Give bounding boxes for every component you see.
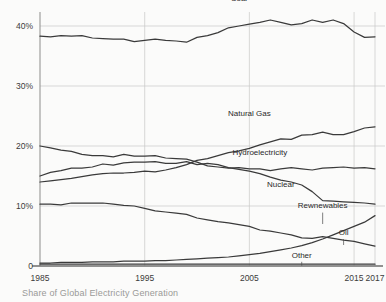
x-tick-label: 2005 — [240, 273, 259, 283]
x-tick-label: 1995 — [135, 273, 154, 283]
y-tick-label: 10% — [16, 201, 33, 211]
y-tick-label: 40% — [16, 21, 33, 31]
series-label-oil: Oil — [339, 228, 349, 237]
x-tick-label: 2015 — [345, 273, 364, 283]
chart-canvas: 010%20%30%40%19851995200520152017CoalNat… — [0, 0, 386, 302]
y-tick-label: 30% — [16, 81, 33, 91]
x-tick-label: 2017 — [366, 273, 385, 283]
series-label-other: Other — [292, 251, 312, 260]
y-tick-label: 0 — [28, 261, 33, 271]
series-line-rewnewables — [40, 216, 375, 263]
series-label-nuclear: Nuclear — [267, 180, 295, 189]
chart-caption: Share of Global Electricity Generation — [22, 288, 178, 298]
series-line-coal — [40, 20, 375, 42]
electricity-generation-chart: 010%20%30%40%19851995200520152017CoalNat… — [0, 0, 386, 302]
series-line-natural-gas — [40, 127, 375, 182]
y-tick-label: 20% — [16, 141, 33, 151]
x-tick-label: 1985 — [31, 273, 50, 283]
series-label-hydroelectricity: Hydroelectricity — [233, 148, 288, 157]
series-label-rewnewables: Rewnewables — [298, 201, 348, 210]
series-label-natural-gas: Natural Gas — [228, 109, 271, 118]
series-label-coal: Coal — [231, 0, 248, 3]
